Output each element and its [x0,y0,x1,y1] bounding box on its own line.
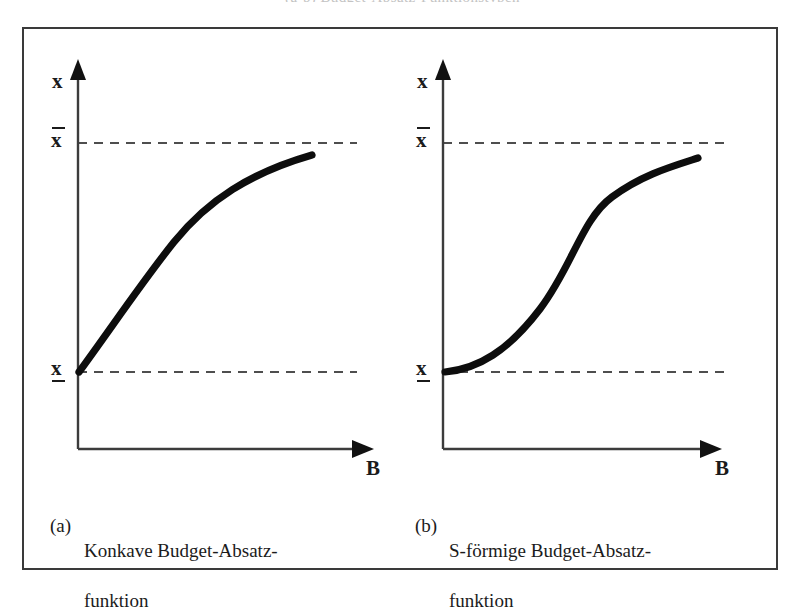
caption-line1-a: Konkave Budget-Absatz- [84,540,278,561]
caption-tag-b: (b) [415,513,449,538]
x-axis-label-a: B [366,458,380,479]
tick-label-x-lower-b-text: x [416,356,427,380]
y-axis-arrowhead-icon [435,59,451,80]
tick-label-x-lower-a: x [51,358,65,382]
caption-tag-a: (a) [50,513,84,538]
y-axis-label-b: x [417,71,428,92]
caption-panel-a: (a) Konkave Budget-Absatz- funktion [50,488,380,611]
caption-line2-a: funktion [84,590,148,611]
tick-label-x-lower-b: x [416,358,430,382]
tick-label-x-upper-a-text: x [51,128,62,152]
caption-line1-b: S-förmige Budget-Absatz- [449,540,651,561]
tick-label-x-upper-a: x [51,127,65,151]
tick-label-x-lower-a-text: x [51,356,62,380]
curve-s-foermige [445,158,698,372]
tick-label-x-upper-b: x [416,127,430,151]
x-axis-label-b: B [715,458,729,479]
y-axis-arrowhead-icon [70,59,86,80]
caption-line2-b: funktion [449,590,513,611]
panel-konkave-budget-absatz-funktion: x B x x (a) Konkave Budget-Absatz- funkt… [22,27,412,570]
panel-s-foermige-budget-absatz-funktion: x B x x (b) S-förmige Budget-Absatz- fun… [390,27,778,570]
page-bleed-text: (a-b) Budget-Absatz-Funktionstypen [0,0,805,2]
tick-label-x-upper-b-text: x [416,128,427,152]
y-axis-label-a: x [52,71,63,92]
caption-panel-b: (b) S-förmige Budget-Absatz- funktion [415,488,755,611]
curve-konkave [79,155,312,372]
